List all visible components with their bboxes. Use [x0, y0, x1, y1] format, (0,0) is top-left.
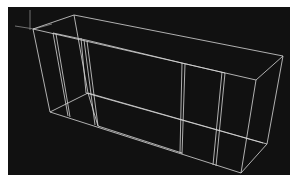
wireframe-model: [8, 7, 290, 175]
axis-indicator-icon: [15, 10, 52, 30]
3d-viewport[interactable]: [8, 7, 290, 175]
